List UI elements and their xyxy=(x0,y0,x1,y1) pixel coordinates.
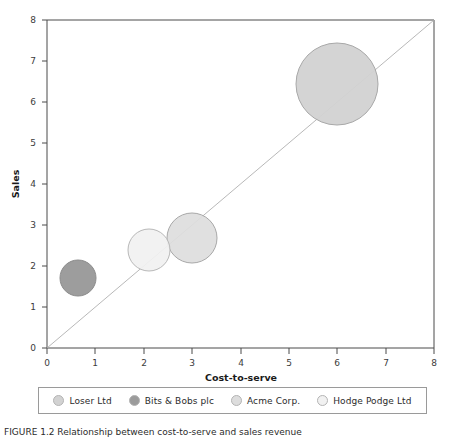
x-tick-label-6: 6 xyxy=(334,358,340,368)
legend-swatch-icon xyxy=(129,395,140,406)
x-tick-label-3: 3 xyxy=(189,358,195,368)
y-tick-label-2: 2 xyxy=(30,261,36,271)
chart-legend: Loser Ltd Bits & Bobs plc Acme Corp. Hod… xyxy=(38,387,427,414)
legend-item-label: Loser Ltd xyxy=(69,396,111,406)
y-tick-label-5: 5 xyxy=(30,138,36,148)
bubble-hodge-podge-ltd[interactable] xyxy=(128,229,170,271)
legend-item-loser-ltd[interactable]: Loser Ltd xyxy=(53,395,111,406)
y-tick-label-6: 6 xyxy=(30,97,36,107)
bubble-acme-corp[interactable] xyxy=(167,213,217,263)
legend-swatch-icon xyxy=(317,395,328,406)
x-tick-label-7: 7 xyxy=(383,358,389,368)
y-tick-label-0: 0 xyxy=(30,343,36,353)
x-tick-label-4: 4 xyxy=(238,358,244,368)
bubble-loser-ltd[interactable] xyxy=(296,43,378,125)
legend-swatch-icon xyxy=(53,395,64,406)
x-tick-label-5: 5 xyxy=(286,358,292,368)
legend-item-bits-and-bobs-plc[interactable]: Bits & Bobs plc xyxy=(129,395,214,406)
y-tick-label-4: 4 xyxy=(30,179,36,189)
legend-item-acme-corp[interactable]: Acme Corp. xyxy=(231,395,300,406)
figure-caption: FIGURE 1.2 Relationship between cost-to-… xyxy=(4,427,462,438)
bubble-bits-and-bobs-plc[interactable] xyxy=(60,260,96,296)
y-tick-label-3: 3 xyxy=(30,220,36,230)
bubble-chart: 0 1 2 3 4 5 6 7 8 0 1 2 3 4 xyxy=(0,0,463,438)
figure-container: 0 1 2 3 4 5 6 7 8 0 1 2 3 4 xyxy=(0,0,463,438)
legend-item-label: Hodge Podge Ltd xyxy=(333,396,411,406)
y-tick-label-8: 8 xyxy=(30,15,36,25)
x-tick-marks xyxy=(47,348,434,354)
x-tick-labels: 0 1 2 3 4 5 6 7 8 xyxy=(44,358,437,368)
legend-item-label: Bits & Bobs plc xyxy=(145,396,214,406)
y-tick-labels: 0 1 2 3 4 5 6 7 8 xyxy=(30,15,36,353)
x-axis-title: Cost-to-serve xyxy=(205,372,277,383)
reference-line-diagonal xyxy=(47,20,434,348)
legend-swatch-icon xyxy=(231,395,242,406)
x-tick-label-2: 2 xyxy=(141,358,147,368)
data-bubbles xyxy=(60,43,378,296)
x-tick-label-0: 0 xyxy=(44,358,50,368)
legend-item-hodge-podge-ltd[interactable]: Hodge Podge Ltd xyxy=(317,395,411,406)
x-tick-label-8: 8 xyxy=(431,358,437,368)
x-tick-label-1: 1 xyxy=(92,358,98,368)
y-tick-label-7: 7 xyxy=(30,56,36,66)
y-tick-label-1: 1 xyxy=(30,302,36,312)
legend-item-label: Acme Corp. xyxy=(247,396,300,406)
y-axis-title: Sales xyxy=(10,169,21,198)
y-tick-marks xyxy=(42,20,47,348)
